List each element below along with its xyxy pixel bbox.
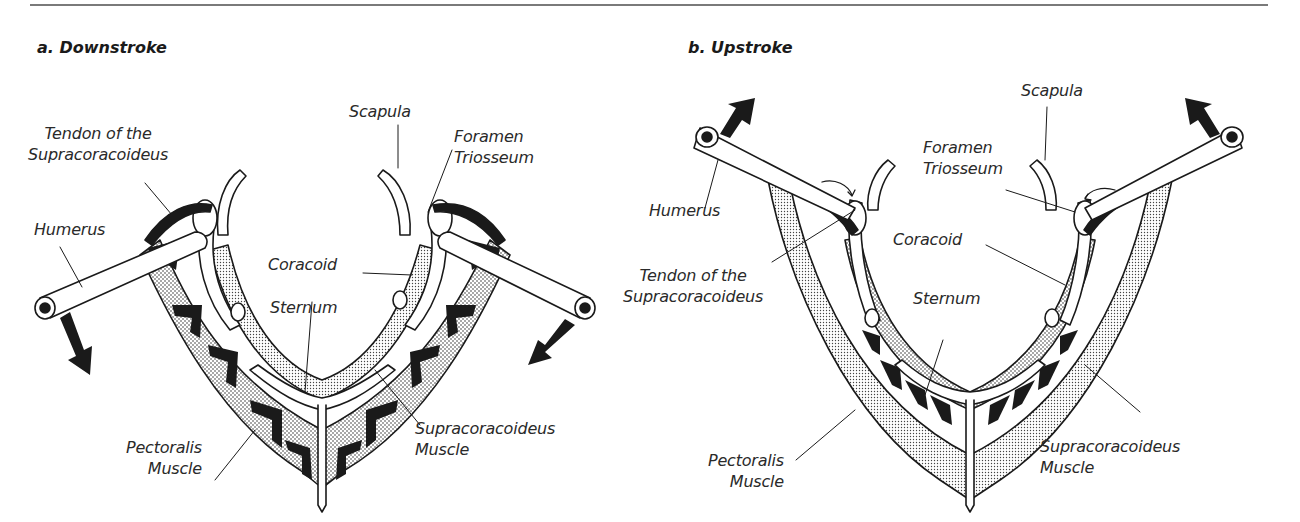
label-sternum-a: Sternum — [270, 297, 337, 318]
down-arrow-right-icon — [528, 319, 575, 365]
scapula-right-b — [1030, 160, 1056, 210]
label-supracoracoideus-a: Supracoracoideus Muscle — [415, 418, 555, 460]
scapula-right-a — [378, 170, 410, 235]
label-humerus-b: Humerus — [649, 200, 720, 221]
label-tendon-b: Tendon of the Supracoracoideus — [623, 265, 763, 307]
label-coracoid-b: Coracoid — [893, 229, 962, 250]
label-foramen-b: Foramen Triosseum — [923, 137, 1003, 179]
label-foramen-a: Foramen Triosseum — [454, 126, 534, 168]
label-scapula-a: Scapula — [349, 101, 411, 122]
label-pectoralis-b: Pectoralis Muscle — [708, 450, 784, 492]
scapula-left-a — [217, 170, 246, 235]
label-pectoralis-a: Pectoralis Muscle — [126, 437, 202, 479]
label-coracoid-a: Coracoid — [268, 254, 337, 275]
label-scapula-b: Scapula — [1021, 80, 1083, 101]
scapula-left-b — [868, 160, 895, 210]
sternum-keel-b — [966, 400, 974, 512]
label-tendon-a: Tendon of the Supracoracoideus — [28, 123, 168, 165]
up-arrow-left-icon — [720, 98, 755, 138]
up-arrow-right-icon — [1185, 98, 1220, 138]
down-arrow-left-icon — [60, 312, 92, 375]
label-humerus-a: Humerus — [34, 219, 105, 240]
label-sternum-b: Sternum — [913, 288, 980, 309]
label-supracoracoideus-b: Supracoracoideus Muscle — [1040, 436, 1180, 478]
sternum-keel-a — [318, 405, 326, 512]
